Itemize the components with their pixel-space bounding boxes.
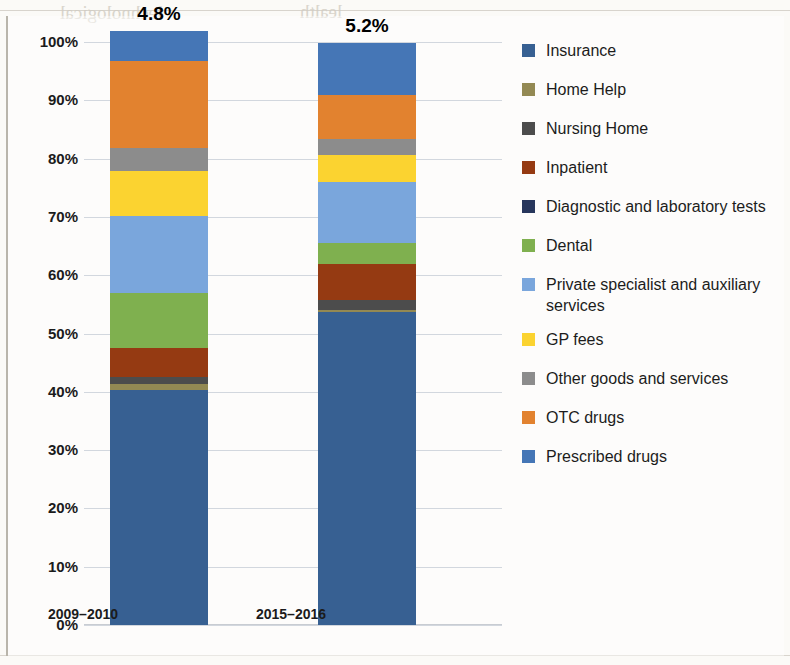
stacked-bar-2009-2010[interactable]: 4.8% [110,31,208,625]
gridline [84,625,502,626]
y-axis-tick-label: 100% [14,33,78,50]
legend-swatch-icon [522,44,535,57]
legend-swatch-icon [522,372,535,385]
bar-segment-private-specialist-and-auxiliary-services[interactable] [110,216,208,293]
x-axis-label-2009-2010: 2009–2010 [23,606,143,622]
legend-item-other-goods-and-services[interactable]: Other goods and services [522,368,784,394]
bar-segment-private-specialist-and-auxiliary-services[interactable] [318,182,416,243]
legend-item-otc-drugs[interactable]: OTC drugs [522,407,784,433]
legend-item-label: Other goods and services [546,368,728,389]
chart-container: 0%10%20%30%40%50%60%70%80%90%100% 4.8%5.… [6,16,784,656]
legend-item-label: Nursing Home [546,118,648,139]
legend-swatch-icon [522,200,535,213]
bar-segment-nursing-home[interactable] [110,377,208,384]
legend-swatch-icon [522,333,535,346]
legend-item-gp-fees[interactable]: GP fees [522,329,784,355]
legend-item-label: Prescribed drugs [546,446,667,467]
legend-item-label: Diagnostic and laboratory tests [546,196,766,217]
bar-segment-inpatient[interactable] [110,348,208,378]
legend-item-label: Insurance [546,40,616,61]
bar-total-label: 5.2% [318,15,416,37]
bar-total-label: 4.8% [110,3,208,25]
bar-segment-dental[interactable] [318,243,416,264]
legend-item-home-help[interactable]: Home Help [522,79,784,105]
scanned-page: lechnological lealth 0%10%20%30%40%50%60… [0,0,790,665]
legend-swatch-icon [522,83,535,96]
legend-item-label: Home Help [546,79,626,100]
y-axis-tick-label: 60% [14,266,78,283]
bar-segment-otc-drugs[interactable] [110,61,208,148]
legend-item-inpatient[interactable]: Inpatient [522,157,784,183]
bar-segment-other-goods-and-services[interactable] [110,148,208,171]
y-axis-tick-label: 70% [14,208,78,225]
bar-segment-otc-drugs[interactable] [318,95,416,140]
bar-segment-insurance[interactable] [110,390,208,625]
legend-item-prescribed-drugs[interactable]: Prescribed drugs [522,446,784,472]
legend-swatch-icon [522,278,535,291]
legend-swatch-icon [522,411,535,424]
legend-swatch-icon [522,122,535,135]
legend-swatch-icon [522,161,535,174]
legend-item-label: Private specialist and auxiliary service… [546,274,784,316]
y-axis-tick-label: 40% [14,383,78,400]
y-axis-tick-label: 90% [14,91,78,108]
y-axis-tick-label: 20% [14,499,78,516]
legend-item-nursing-home[interactable]: Nursing Home [522,118,784,144]
bar-segment-gp-fees[interactable] [318,155,416,182]
legend-item-label: OTC drugs [546,407,624,428]
y-axis-tick-label: 80% [14,150,78,167]
bar-segment-dental[interactable] [110,293,208,348]
legend-item-label: Dental [546,235,592,256]
legend-item-private-specialist-and-auxiliary-services[interactable]: Private specialist and auxiliary service… [522,274,784,316]
legend-swatch-icon [522,450,535,463]
y-axis-tick-label: 10% [14,558,78,575]
y-axis-tick-label: 50% [14,325,78,342]
legend: InsuranceHome HelpNursing HomeInpatientD… [522,40,784,485]
bar-segment-prescribed-drugs[interactable] [110,31,208,61]
stacked-bar-2015-2016[interactable]: 5.2% [318,43,416,625]
legend-item-label: Inpatient [546,157,607,178]
bar-segment-prescribed-drugs[interactable] [318,43,416,95]
legend-item-label: GP fees [546,329,604,350]
legend-item-diagnostic-and-laboratory-tests[interactable]: Diagnostic and laboratory tests [522,196,784,222]
bar-segment-gp-fees[interactable] [110,171,208,216]
y-axis: 0%10%20%30%40%50%60%70%80%90%100% [8,42,78,625]
legend-item-dental[interactable]: Dental [522,235,784,261]
legend-item-insurance[interactable]: Insurance [522,40,784,66]
bar-segment-inpatient[interactable] [318,264,416,300]
bar-segment-other-goods-and-services[interactable] [318,139,416,155]
bar-segment-insurance[interactable] [318,312,416,625]
plot-area: 4.8%5.2% [84,42,502,625]
x-axis-label-2015-2016: 2015–2016 [231,606,351,622]
legend-swatch-icon [522,239,535,252]
bar-segment-nursing-home[interactable] [318,300,416,310]
y-axis-tick-label: 30% [14,441,78,458]
